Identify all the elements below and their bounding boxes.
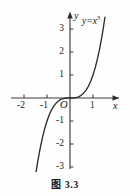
curve-equation-exponent: 3 <box>97 14 100 21</box>
x-tick-label-minus1: -1 <box>40 101 48 111</box>
curve-equation-label: y=x3 <box>82 15 100 27</box>
y-axis-name-label: y <box>74 11 78 21</box>
figure-caption: 图 3.3 <box>0 176 130 191</box>
coordinate-plot-svg <box>0 0 130 172</box>
y-tick-label-minus3: -3 <box>47 162 64 172</box>
y-tick-label-2: 2 <box>50 47 64 57</box>
origin-label: O <box>60 100 68 111</box>
figure-container: -2 -1 1 3 2 1 -1 -2 -3 O y x y=x3 图 3.3 <box>0 0 130 196</box>
x-tick-label-1: 1 <box>90 101 95 111</box>
y-tick-label-3: 3 <box>50 24 64 34</box>
x-tick-label-minus2: -2 <box>17 101 25 111</box>
y-tick-label-1: 1 <box>50 70 64 80</box>
plot-area <box>0 0 130 172</box>
y-axis-arrow-icon <box>67 12 73 19</box>
y-tick-label-minus1: -1 <box>47 116 64 126</box>
x-axis-name-label: x <box>113 101 117 111</box>
curve-equation-base: y=x <box>82 16 97 26</box>
y-tick-label-minus2: -2 <box>47 139 64 149</box>
